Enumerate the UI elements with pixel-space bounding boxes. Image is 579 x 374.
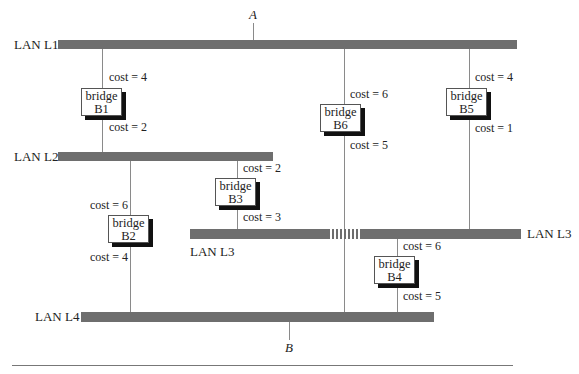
b3-cost-top: cost = 2 [243,161,281,176]
endpoint-a-link [253,23,254,40]
b5-link [469,49,470,229]
bridge-b3: bridge B3 [215,178,256,206]
lan-l3-crossover-hatch [328,229,362,239]
b4-cost-top: cost = 6 [403,239,441,254]
b4-cost-bottom: cost = 5 [403,289,441,304]
b6-link [344,49,345,312]
bridge-b6-name: B6 [321,119,360,132]
b2-cost-top: cost = 6 [90,198,128,213]
bridge-b4: bridge B4 [374,256,415,284]
b1-cost-top: cost = 4 [109,70,147,85]
bridge-b1-name: B1 [82,103,121,116]
b1-cost-bottom: cost = 2 [109,120,147,135]
bridge-b6: bridge B6 [320,104,361,132]
lan-l3-label: LAN L3 [190,244,234,260]
bridge-b5-name: B5 [447,103,486,116]
bridge-b2: bridge B2 [108,215,149,243]
endpoint-b-label: B [285,340,293,356]
b5-cost-top: cost = 4 [475,70,513,85]
b2-cost-bottom: cost = 4 [90,250,128,265]
lan-l4-bar [81,312,434,322]
b6-cost-bottom: cost = 5 [350,138,388,153]
bridge-b3-name: B3 [216,193,255,206]
bridge-b5: bridge B5 [446,88,487,116]
bridge-b1: bridge B1 [81,88,122,116]
lan-l4-label: LAN L4 [35,309,79,325]
b6-cost-top: cost = 6 [350,87,388,102]
lan-l2-bar [58,152,273,161]
bridge-b4-name: B4 [375,271,414,284]
lan-l3-label-right: LAN L3 [527,226,571,242]
endpoint-b-link [289,322,290,340]
b5-cost-bottom: cost = 1 [475,121,513,136]
endpoint-a-label: A [249,7,257,23]
b3-cost-bottom: cost = 3 [243,210,281,225]
lan-l1-bar [58,40,517,49]
lan-l2-label: LAN L2 [14,149,58,165]
bridge-b2-name: B2 [109,230,148,243]
lan-l1-label: LAN L1 [14,37,58,53]
bottom-divider [12,365,513,366]
